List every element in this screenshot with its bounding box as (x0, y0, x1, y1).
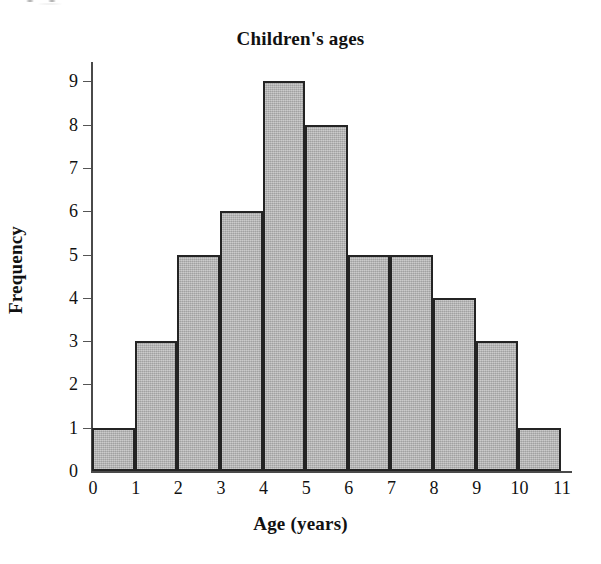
histogram-bar (135, 341, 178, 471)
x-tick-label: 1 (131, 479, 140, 497)
histogram-chart: Children's ages Frequency Age (years) 01… (0, 0, 601, 564)
y-tick-label: 2 (0, 375, 78, 393)
x-tick-label: 11 (553, 479, 570, 497)
histogram-bar (177, 255, 220, 472)
y-tick-mark (83, 384, 91, 385)
y-axis-line (91, 62, 93, 473)
y-tick-label: 5 (0, 246, 78, 264)
x-axis-title: Age (years) (0, 513, 601, 535)
histogram-bar (92, 428, 135, 471)
histogram-bar (220, 211, 263, 471)
y-tick-label: 7 (0, 159, 78, 177)
histogram-bar (348, 255, 391, 472)
histogram-bar (263, 81, 306, 471)
histogram-bar (433, 298, 476, 471)
x-tick-label: 4 (259, 479, 268, 497)
x-tick-label: 7 (387, 479, 396, 497)
x-tick-label: 3 (216, 479, 225, 497)
y-tick-mark (83, 428, 91, 429)
y-tick-label: 1 (0, 419, 78, 437)
x-axis-line (93, 471, 572, 473)
histogram-bar (305, 125, 348, 471)
y-tick-mark (83, 168, 91, 169)
x-tick-label: 6 (344, 479, 353, 497)
histogram-bar (390, 255, 433, 472)
y-tick-label: 9 (0, 72, 78, 90)
x-tick-label: 2 (174, 479, 183, 497)
x-tick-label: 8 (430, 479, 439, 497)
x-tick-label: 5 (302, 479, 311, 497)
x-tick-label: 9 (472, 479, 481, 497)
y-tick-label: 8 (0, 116, 78, 134)
y-tick-mark (83, 125, 91, 126)
x-tick-label: 10 (510, 479, 528, 497)
histogram-bar (518, 428, 561, 471)
y-tick-mark (83, 211, 91, 212)
y-tick-label: 3 (0, 332, 78, 350)
y-tick-mark (83, 298, 91, 299)
y-tick-mark (83, 81, 91, 82)
y-tick-mark (83, 255, 91, 256)
histogram-bar (476, 341, 519, 471)
y-tick-label: 6 (0, 202, 78, 220)
y-tick-mark (83, 341, 91, 342)
chart-title: Children's ages (0, 28, 601, 50)
scan-artifact (22, 0, 80, 5)
y-tick-label: 4 (0, 289, 78, 307)
y-tick-label: 0 (0, 462, 78, 480)
x-tick-label: 0 (89, 479, 98, 497)
